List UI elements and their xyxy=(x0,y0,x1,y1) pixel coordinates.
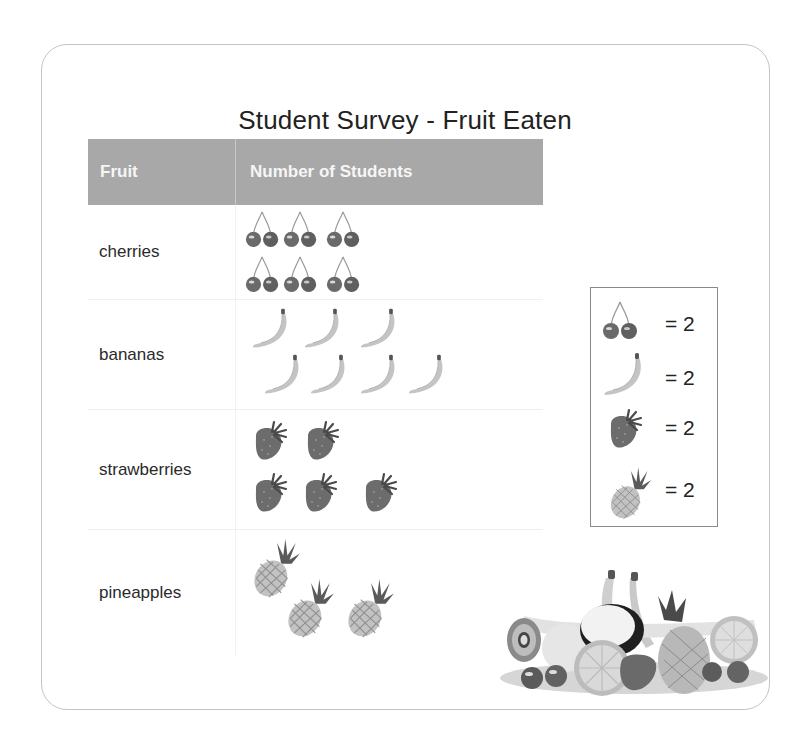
strawberry-icon xyxy=(250,472,294,516)
banana-icon xyxy=(300,304,346,356)
strawberry-icon xyxy=(250,420,294,464)
pineapple-icon xyxy=(344,576,396,640)
cherry-icon xyxy=(282,210,320,248)
strawberry-icons xyxy=(236,410,543,529)
legend-item-pineapples: = 2 xyxy=(591,458,717,514)
banana-icons xyxy=(236,300,543,409)
fruit-bowl-illustration xyxy=(494,560,774,700)
header-number-of-students: Number of Students xyxy=(236,139,543,205)
legend-value: = 2 xyxy=(665,416,695,440)
table-row-pineapples: pineapples xyxy=(88,530,543,655)
header-fruit: Fruit xyxy=(88,139,236,205)
table-row-bananas: bananas xyxy=(88,300,543,410)
legend-value: = 2 xyxy=(665,478,695,502)
pineapple-icon xyxy=(607,464,653,522)
pictograph-table: Fruit Number of Students cherries banana… xyxy=(88,139,543,655)
legend-value: = 2 xyxy=(665,312,695,336)
banana-icon xyxy=(404,350,450,402)
cherry-icon xyxy=(601,298,641,342)
legend-item-cherries: = 2 xyxy=(591,292,717,348)
legend-item-strawberries: = 2 xyxy=(591,406,717,462)
banana-icon xyxy=(356,304,402,356)
strawberry-icon xyxy=(300,472,344,516)
banana-icon xyxy=(356,350,402,402)
legend-key: = 2 = 2 = 2 = 2 xyxy=(590,287,718,527)
row-label: cherries xyxy=(88,205,236,299)
cherry-icons xyxy=(236,205,543,299)
strawberry-icon xyxy=(360,472,404,516)
cherry-icon xyxy=(282,255,320,293)
strawberry-icon xyxy=(302,420,346,464)
cherry-icon xyxy=(244,210,282,248)
table-header: Fruit Number of Students xyxy=(88,139,543,205)
row-label: bananas xyxy=(88,300,236,409)
legend-value: = 2 xyxy=(665,366,695,390)
legend-item-bananas: = 2 xyxy=(591,350,717,406)
row-label: strawberries xyxy=(88,410,236,529)
banana-icon xyxy=(248,304,294,356)
chart-title: Student Survey - Fruit Eaten xyxy=(0,105,810,136)
pineapple-icon xyxy=(284,576,336,640)
cherry-icon xyxy=(244,255,282,293)
cherry-icon xyxy=(325,255,363,293)
row-label: pineapples xyxy=(88,530,236,655)
banana-icon xyxy=(260,350,306,402)
table-row-cherries: cherries xyxy=(88,205,543,300)
table-row-strawberries: strawberries xyxy=(88,410,543,530)
banana-icon xyxy=(599,350,649,402)
strawberry-icon xyxy=(605,408,649,452)
cherry-icon xyxy=(325,210,363,248)
banana-icon xyxy=(306,350,352,402)
